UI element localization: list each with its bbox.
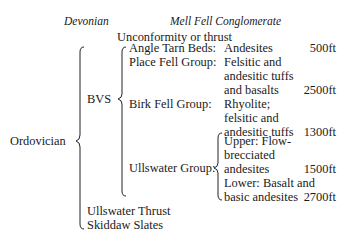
skiddaw-slates-label: Skiddaw Slates — [87, 218, 163, 232]
thickness: 500ft — [296, 41, 336, 55]
lithology-line: Lower: Basalt and — [224, 176, 315, 190]
period-label: Ordovician — [10, 134, 66, 148]
lithology-line: Felsitic and — [224, 55, 281, 69]
thickness: 1300ft — [296, 125, 336, 139]
thickness: 2500ft — [296, 83, 336, 97]
ordovician-brace — [76, 47, 84, 229]
unit-name: Angle Tarn Beds: — [129, 41, 216, 55]
header-mell-fell: Mell Fell Conglomerate — [170, 14, 281, 28]
thickness: 2700ft — [296, 190, 336, 204]
lithology-line: brecciated — [224, 148, 275, 162]
ullswater-thrust-label: Ullswater Thrust — [87, 204, 170, 218]
bvs-label: BVS — [87, 92, 111, 106]
lithology-line: and basalts — [224, 83, 279, 97]
lithology-line: Upper: Flow- — [224, 134, 291, 148]
lithology-line: andesitic tuffs — [224, 69, 294, 83]
header-devonian: Devonian — [64, 14, 109, 28]
lithology-line: Andesites — [224, 41, 273, 55]
lithology-line: Rhyolite; — [224, 97, 270, 111]
unit-name: Place Fell Group: — [129, 55, 216, 69]
thickness: 1500ft — [296, 162, 336, 176]
unit-name: Birk Fell Group: — [129, 97, 212, 111]
unit-name: Ullswater Group: — [129, 161, 215, 175]
lithology-line: basic andesites — [224, 190, 298, 204]
bvs-brace — [118, 47, 126, 196]
lithology-line: andesites — [224, 162, 269, 176]
lithology-line: felsitic and — [224, 111, 279, 125]
